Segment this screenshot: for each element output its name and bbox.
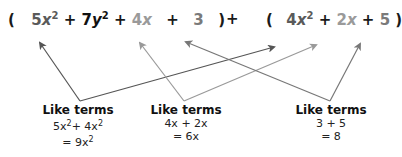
right-close-paren: ) — [395, 11, 402, 29]
group-title: Like terms — [271, 103, 391, 117]
group-sum: 5x2+ 4x2 — [18, 117, 138, 133]
group-title: Like terms — [126, 103, 246, 117]
group-sum: 3 + 5 — [271, 117, 391, 130]
arrow-group-x — [140, 43, 316, 101]
group-title: Like terms — [18, 103, 138, 117]
arrow-group-x2 — [40, 43, 274, 101]
arrow-group-const — [186, 42, 360, 101]
group-result: = 9x2 — [18, 133, 138, 149]
group-result: = 8 — [271, 130, 391, 143]
like-terms-x2: Like terms 5x2+ 4x2 = 9x2 — [18, 103, 138, 149]
group-sum: 4x + 2x — [126, 117, 246, 130]
like-terms-const: Like terms 3 + 5 = 8 — [271, 103, 391, 143]
like-terms-x: Like terms 4x + 2x = 6x — [126, 103, 246, 143]
group-result: = 6x — [126, 130, 246, 143]
